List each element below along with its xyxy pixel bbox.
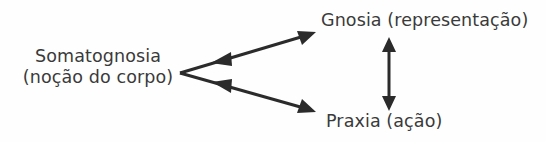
somatognosia-line-2: (noção do corpo) [18,67,178,88]
node-label-gnosia: Gnosia (representação) [321,10,528,31]
node-label-praxia: Praxia (ação) [326,111,442,132]
connector-somatognosia-gnosia [180,31,316,73]
node-label-somatognosia: Somatognosia (noção do corpo) [18,46,178,88]
diagram-canvas: Somatognosia (noção do corpo) Gnosia (re… [0,0,546,142]
somatognosia-line-1: Somatognosia [18,46,178,67]
connector-gnosia-praxia [382,37,396,111]
connector-somatognosia-praxia [180,73,316,113]
